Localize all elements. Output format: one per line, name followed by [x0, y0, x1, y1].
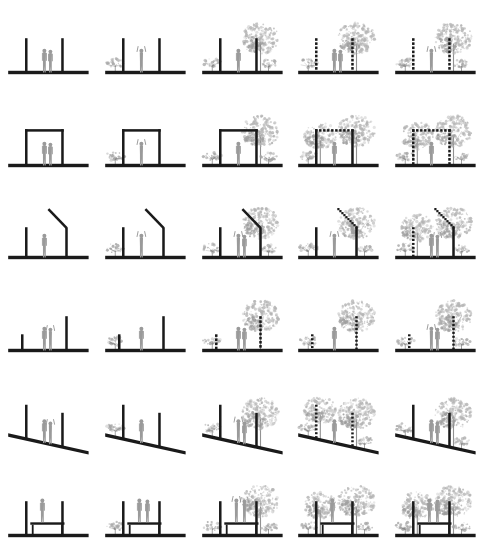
section-cell-r6-c3: [194, 463, 291, 555]
section-cell-r5-c2: [97, 370, 194, 463]
section-cell-r6-c2: [97, 463, 194, 555]
section-cell-r2-c3: [194, 93, 291, 186]
section-cell-r5-c3: [194, 370, 291, 463]
section-cell-r4-c5: [387, 278, 484, 371]
section-cell-r5-c5: [387, 370, 484, 463]
section-cell-r4-c2: [97, 278, 194, 371]
section-grid: [0, 0, 484, 555]
section-cell-r3-c3: [194, 185, 291, 278]
section-cell-r1-c2: [97, 0, 194, 93]
section-cell-r1-c5: [387, 0, 484, 93]
section-cell-r6-c5: [387, 463, 484, 555]
section-cell-r3-c2: [97, 185, 194, 278]
section-cell-r4-c1: [0, 278, 97, 371]
section-cell-r1-c1: [0, 0, 97, 93]
section-cell-r3-c4: [290, 185, 387, 278]
section-cell-r6-c1: [0, 463, 97, 555]
section-cell-r5-c4: [290, 370, 387, 463]
section-cell-r2-c1: [0, 93, 97, 186]
section-cell-r4-c3: [194, 278, 291, 371]
section-matrix-sheet: [0, 0, 484, 555]
section-cell-r4-c4: [290, 278, 387, 371]
section-cell-r3-c1: [0, 185, 97, 278]
section-cell-r3-c5: [387, 185, 484, 278]
section-cell-r2-c2: [97, 93, 194, 186]
section-cell-r1-c4: [290, 0, 387, 93]
section-cell-r5-c1: [0, 370, 97, 463]
section-cell-r2-c5: [387, 93, 484, 186]
section-cell-r6-c4: [290, 463, 387, 555]
section-cell-r2-c4: [290, 93, 387, 186]
section-cell-r1-c3: [194, 0, 291, 93]
